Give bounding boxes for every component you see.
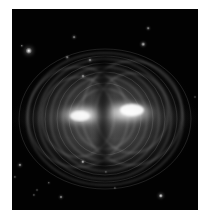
star (159, 194, 163, 198)
star (82, 75, 85, 78)
star (48, 182, 50, 184)
star (18, 163, 21, 166)
star (105, 171, 107, 173)
star (26, 48, 32, 54)
star (66, 56, 69, 59)
star (36, 189, 38, 191)
star (21, 45, 23, 47)
star (89, 59, 92, 62)
star (14, 176, 16, 178)
star (81, 160, 84, 163)
star-field (12, 9, 198, 210)
star (147, 27, 150, 30)
star (114, 187, 116, 189)
star (141, 42, 145, 46)
star (60, 196, 63, 199)
star (33, 194, 35, 196)
star (73, 36, 76, 39)
star (194, 96, 196, 98)
nebula-image (12, 9, 198, 210)
